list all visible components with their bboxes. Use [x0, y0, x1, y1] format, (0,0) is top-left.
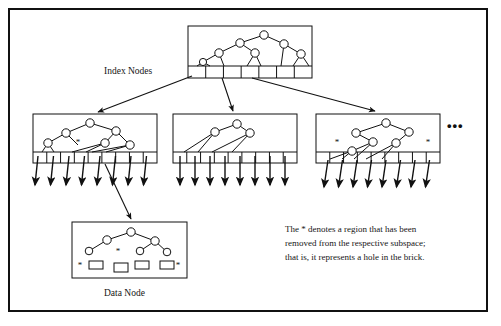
index-node-middle-tree-circle[interactable]	[233, 120, 241, 128]
index-node-left-star-marker: *	[76, 137, 81, 147]
root-index-node-tree-circle[interactable]	[251, 49, 259, 57]
root-index-node	[188, 26, 312, 78]
index-node-right-tree-circle[interactable]	[369, 138, 377, 146]
index-node-left-box[interactable]	[33, 114, 157, 163]
diagram-vector-layer: ******	[0, 0, 501, 326]
index-node-right-tree-circle[interactable]	[382, 119, 390, 127]
arrow-root-to-right	[252, 78, 375, 111]
index-node-middle-tree-circle[interactable]	[246, 129, 254, 137]
leaf-arrows-right-arrow	[411, 160, 415, 187]
root-index-node-box[interactable]	[188, 26, 312, 78]
index-node-left-tree-circle[interactable]	[126, 141, 134, 149]
index-node-right-tree-circle[interactable]	[392, 139, 400, 147]
label-data-node: Data Node	[104, 287, 145, 300]
root-index-node-tree-circle[interactable]	[236, 39, 244, 47]
index-node-middle	[173, 114, 297, 163]
index-node-left-tree-circle[interactable]	[101, 139, 109, 147]
data-node-star-marker: *	[176, 260, 181, 270]
data-node-tree-circle[interactable]	[103, 236, 111, 244]
root-index-node-tree-circle[interactable]	[215, 49, 223, 57]
data-node-tree-circle[interactable]	[151, 237, 159, 245]
caption-line-3: that is, it represents a hole in the bri…	[285, 250, 425, 264]
leaf-arrows-right-arrow	[324, 160, 328, 187]
figure-canvas: ****** Index Nodes Data Node ••• The * d…	[0, 0, 501, 326]
leaf-arrows-right-arrow	[397, 160, 401, 187]
arrow-root-to-middle	[222, 78, 233, 111]
index-node-left-tree-circle[interactable]	[112, 127, 120, 135]
root-index-node-tree-circle[interactable]	[297, 50, 305, 58]
caption-block: The * denotes a region that has been rem…	[285, 222, 425, 264]
index-node-left-tree-circle[interactable]	[86, 119, 94, 127]
data-node-tree-circle[interactable]	[85, 247, 93, 255]
caption-line-2: removed from the respective subspace;	[285, 236, 425, 250]
index-node-right: **	[316, 114, 440, 163]
index-node-middle-tree-circle[interactable]	[211, 128, 219, 136]
index-node-left-tree-circle[interactable]	[62, 129, 70, 137]
index-node-right-star-marker: *	[335, 137, 340, 147]
ellipsis-icon: •••	[447, 118, 464, 133]
root-index-node-tree-circle[interactable]	[199, 58, 206, 65]
index-node-right-tree-circle[interactable]	[405, 128, 413, 136]
index-node-left-tree-circle[interactable]	[44, 139, 52, 147]
data-node-tree-circle[interactable]	[163, 248, 171, 256]
index-node-right-tree-circle[interactable]	[348, 147, 356, 155]
data-node-star-marker: *	[116, 246, 121, 256]
leaf-arrows-right-arrow	[339, 160, 343, 187]
data-node-bucket-rect[interactable]	[114, 263, 128, 272]
index-node-left: *	[33, 114, 157, 163]
leaf-arrows-right-arrow	[368, 160, 372, 187]
data-node-tree-circle[interactable]	[136, 247, 144, 255]
caption-line-1: The * denotes a region that has been	[285, 222, 425, 236]
arrow-root-to-left	[98, 76, 192, 112]
index-node-right-star-marker: *	[426, 137, 431, 147]
data-node-star-marker: *	[78, 260, 83, 270]
data-node-bucket-rect[interactable]	[135, 261, 149, 269]
arrow-index-to-data-node	[105, 164, 131, 219]
root-index-node-tree-circle[interactable]	[280, 40, 288, 48]
label-index-nodes: Index Nodes	[104, 65, 152, 78]
data-node: ***	[72, 222, 187, 278]
leaf-arrows-right-arrow	[353, 160, 357, 187]
root-index-node-tree-circle[interactable]	[260, 31, 268, 39]
data-node-bucket-rect[interactable]	[160, 261, 174, 269]
data-node-tree-circle[interactable]	[127, 228, 135, 236]
leaf-arrows-right-arrow	[382, 160, 386, 187]
index-node-right-tree-circle[interactable]	[352, 129, 360, 137]
data-node-bucket-rect[interactable]	[89, 261, 103, 269]
leaf-arrows-right-arrow	[426, 160, 430, 187]
